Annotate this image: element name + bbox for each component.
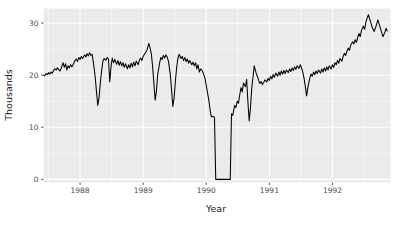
y-tick-label: 10 [29,123,39,132]
x-tick-label: 1988 [71,186,90,195]
x-tick-label: 1990 [197,186,216,195]
y-tick-label: 20 [29,71,39,80]
y-tick-label: 30 [29,19,39,28]
y-axis-title: Thousands [3,69,14,121]
x-tick-label: 1992 [323,186,342,195]
chart-container: 0102030 19881989199019911992 Thousands Y… [0,0,400,225]
line-chart: 0102030 19881989199019911992 Thousands Y… [0,0,400,225]
plot-panel-background [44,9,391,183]
y-tick-label: 0 [34,175,39,184]
x-tick-label: 1989 [134,186,153,195]
x-axis-title: Year [205,203,226,214]
x-tick-label: 1991 [260,186,279,195]
